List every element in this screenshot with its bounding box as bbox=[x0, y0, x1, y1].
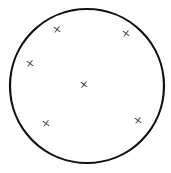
x-mark-center: × bbox=[79, 77, 89, 93]
figure-canvas: ×××××× bbox=[0, 0, 171, 173]
